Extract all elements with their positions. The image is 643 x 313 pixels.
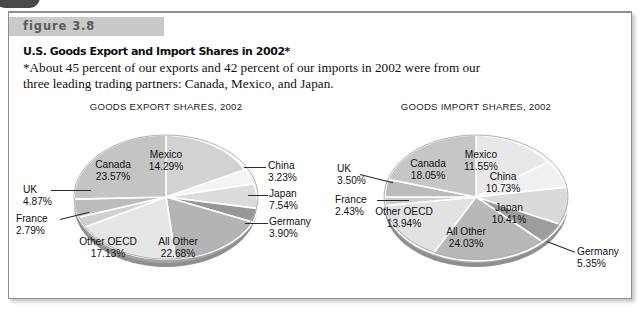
export-label-japan-name: Japan bbox=[269, 188, 317, 200]
export-label-uk-name: UK bbox=[23, 184, 63, 196]
import-label-germany-pct: 5.35% bbox=[577, 258, 631, 270]
import-label-germany: Germany 5.35% bbox=[577, 246, 631, 269]
export-label-germany: Germany 3.90% bbox=[269, 216, 321, 239]
export-leader-china bbox=[244, 167, 266, 168]
export-pie bbox=[56, 121, 276, 286]
export-label-all-other-pct: 22.68% bbox=[147, 248, 209, 260]
import-pie-svg bbox=[366, 121, 586, 286]
import-pie bbox=[366, 121, 586, 286]
export-label-germany-pct: 3.90% bbox=[269, 228, 321, 240]
import-label-uk-pct: 3.50% bbox=[337, 175, 377, 187]
export-label-canada-pct: 23.57% bbox=[84, 171, 142, 183]
import-label-china-name: China bbox=[478, 171, 528, 183]
export-label-japan-pct: 7.54% bbox=[269, 200, 317, 212]
export-label-france: France 2.79% bbox=[16, 213, 62, 236]
import-label-japan: Japan 10.41% bbox=[484, 202, 534, 225]
export-label-all-other: All Other 22.68% bbox=[147, 236, 209, 259]
export-chart-title: GOODS EXPORT SHARES, 2002 bbox=[11, 101, 321, 112]
import-chart-panel: GOODS IMPORT SHARES, 2002 bbox=[321, 101, 631, 297]
figure-title: U.S. Goods Export and Import Shares in 2… bbox=[23, 45, 290, 58]
export-chart-panel: GOODS EXPORT SHARES, 2002 bbox=[11, 101, 321, 297]
import-label-france-pct: 2.43% bbox=[335, 206, 381, 218]
import-label-uk: UK 3.50% bbox=[337, 163, 377, 186]
figure-number-label: figure 3.8 bbox=[23, 19, 95, 33]
import-chart-title: GOODS IMPORT SHARES, 2002 bbox=[321, 101, 631, 112]
import-label-china: China 10.73% bbox=[478, 171, 528, 194]
export-label-china-name: China bbox=[268, 160, 316, 172]
import-label-mexico: Mexico 11.55% bbox=[453, 149, 509, 172]
page-number-tab bbox=[0, 0, 40, 8]
export-label-china-pct: 3.23% bbox=[268, 172, 316, 184]
import-label-other-oecd-pct: 13.94% bbox=[366, 218, 442, 230]
export-label-other-oecd-pct: 17.13% bbox=[73, 248, 143, 260]
import-label-japan-name: Japan bbox=[484, 202, 534, 214]
import-label-canada-pct: 18.05% bbox=[398, 170, 458, 182]
export-label-canada-name: Canada bbox=[84, 159, 142, 171]
export-pie-svg bbox=[56, 121, 276, 286]
export-label-uk-pct: 4.87% bbox=[23, 196, 63, 208]
figure-screenshot: figure 3.8 U.S. Goods Export and Import … bbox=[0, 0, 643, 313]
import-label-mexico-name: Mexico bbox=[453, 149, 509, 161]
import-label-canada-name: Canada bbox=[398, 158, 458, 170]
export-label-other-oecd: Other OECD 17.13% bbox=[73, 236, 143, 259]
export-leader-japan bbox=[248, 195, 268, 196]
import-label-japan-pct: 10.41% bbox=[484, 214, 534, 226]
export-label-mexico-pct: 14.29% bbox=[139, 161, 193, 173]
export-label-mexico: Mexico 14.29% bbox=[139, 149, 193, 172]
export-label-canada: Canada 23.57% bbox=[84, 159, 142, 182]
export-label-china: China 3.23% bbox=[268, 160, 316, 183]
import-leader-france bbox=[377, 200, 409, 201]
import-label-france: France 2.43% bbox=[335, 194, 381, 217]
import-label-all-other-pct: 24.03% bbox=[434, 238, 498, 250]
figure-footnote: *About 45 percent of our exports and 42 … bbox=[23, 60, 493, 91]
import-label-all-other: All Other 24.03% bbox=[434, 226, 498, 249]
export-label-germany-name: Germany bbox=[269, 216, 321, 228]
import-label-all-other-name: All Other bbox=[434, 226, 498, 238]
export-label-uk: UK 4.87% bbox=[23, 184, 63, 207]
import-label-germany-name: Germany bbox=[577, 246, 631, 258]
export-label-france-pct: 2.79% bbox=[16, 225, 62, 237]
import-label-china-pct: 10.73% bbox=[478, 183, 528, 195]
export-label-other-oecd-name: Other OECD bbox=[73, 236, 143, 248]
figure-frame: figure 3.8 U.S. Goods Export and Import … bbox=[8, 11, 632, 299]
import-label-canada: Canada 18.05% bbox=[398, 158, 458, 181]
export-label-all-other-name: All Other bbox=[147, 236, 209, 248]
export-label-mexico-name: Mexico bbox=[139, 149, 193, 161]
import-label-france-name: France bbox=[335, 194, 381, 206]
export-label-france-name: France bbox=[16, 213, 62, 225]
export-label-japan: Japan 7.54% bbox=[269, 188, 317, 211]
import-label-uk-name: UK bbox=[337, 163, 377, 175]
export-leader-germany bbox=[245, 223, 268, 224]
